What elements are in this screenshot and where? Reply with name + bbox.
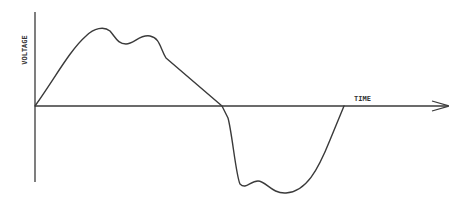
waveform-curve xyxy=(35,28,344,193)
x-axis-label: TIME xyxy=(354,95,371,103)
y-axis-label: VOLTAGE xyxy=(21,35,29,65)
voltage-time-waveform-diagram: VOLTAGE TIME xyxy=(0,0,449,208)
